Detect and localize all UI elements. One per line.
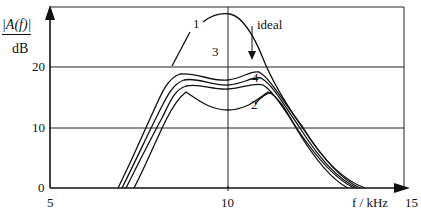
y-tick-0: 0 bbox=[38, 181, 45, 194]
curve-label-1: 1 bbox=[193, 17, 200, 30]
y-axis-label-text: |A(f)| bbox=[2, 17, 31, 32]
chart-canvas bbox=[0, 0, 421, 215]
y-tick-20: 20 bbox=[32, 60, 45, 73]
x-tick-10: 10 bbox=[221, 196, 234, 209]
curve-3 bbox=[118, 72, 360, 188]
y-tick-10: 10 bbox=[32, 121, 45, 134]
x-axis-label: f / kHz bbox=[352, 196, 388, 209]
y-axis-label-unit: dB bbox=[12, 42, 28, 56]
curve-ideal bbox=[122, 78, 357, 188]
curves bbox=[118, 14, 365, 188]
x-tick-15: 15 bbox=[405, 196, 418, 209]
curve-label-ideal: ideal bbox=[257, 18, 282, 31]
curve-2 bbox=[134, 92, 348, 188]
grid bbox=[50, 7, 404, 188]
ideal-arrow-head bbox=[248, 51, 256, 60]
y-axis-label-top: |A(f)| bbox=[2, 18, 31, 35]
curve-label-3: 3 bbox=[212, 45, 219, 58]
x-tick-5: 5 bbox=[47, 196, 54, 209]
label-1-leader bbox=[172, 32, 190, 66]
curve-label-2: 2 bbox=[251, 98, 258, 111]
curve-label-4: 4 bbox=[252, 71, 259, 84]
label-2-leader bbox=[255, 92, 272, 104]
curve-4 bbox=[126, 84, 354, 188]
